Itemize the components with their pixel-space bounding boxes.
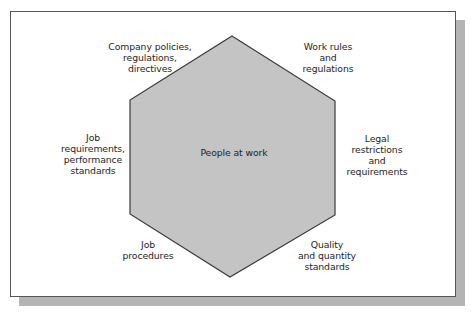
- factor-line: Company policies,: [108, 41, 192, 52]
- factor-line: procedures: [118, 250, 178, 261]
- factor-line: restrictions: [340, 144, 414, 155]
- factor-line: requirements,: [58, 143, 128, 154]
- factor-legal-restrictions: Legal restrictions and requirements: [340, 133, 414, 177]
- factor-line: Job: [58, 132, 128, 143]
- factor-line: Job: [118, 239, 178, 250]
- factor-line: regulations: [296, 63, 360, 74]
- factor-company-policies: Company policies, regulations, directive…: [108, 41, 192, 74]
- factor-line: standards: [58, 165, 128, 176]
- factor-work-rules: Work rules and regulations: [296, 41, 360, 74]
- center-label: People at work: [196, 147, 272, 158]
- factor-line: requirements: [340, 166, 414, 177]
- factor-line: performance: [58, 154, 128, 165]
- factor-line: and: [296, 52, 360, 63]
- factor-job-procedures: Job procedures: [118, 239, 178, 261]
- factor-line: and quantity: [292, 250, 362, 261]
- factor-line: Quality: [292, 239, 362, 250]
- factor-quality-quantity: Quality and quantity standards: [292, 239, 362, 272]
- factor-line: and: [340, 155, 414, 166]
- factor-line: Legal: [340, 133, 414, 144]
- factor-line: directives: [108, 63, 192, 74]
- factor-line: regulations,: [108, 52, 192, 63]
- factor-job-requirements: Job requirements, performance standards: [58, 132, 128, 176]
- factor-line: Work rules: [296, 41, 360, 52]
- factor-line: standards: [292, 261, 362, 272]
